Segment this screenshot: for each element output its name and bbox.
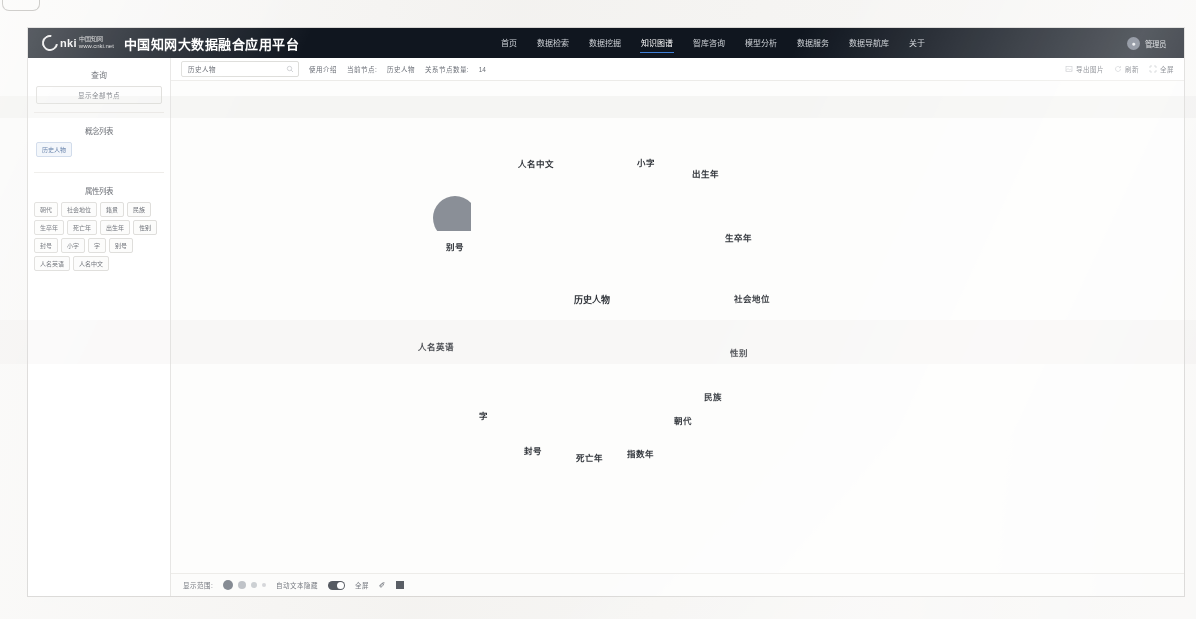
current-node-value: 历史人物 xyxy=(387,64,415,74)
graph-node-label: 小字 xyxy=(637,156,655,168)
paper-corner-mark xyxy=(2,0,40,11)
sidebar-title: 查询 xyxy=(28,64,170,86)
export-image-icon xyxy=(1065,65,1073,73)
attribute-item[interactable]: 社会地位 xyxy=(61,202,97,217)
attribute-item[interactable]: 死亡年 xyxy=(67,220,97,235)
logo-circle-icon xyxy=(39,32,61,54)
attribute-item[interactable]: 字 xyxy=(88,238,106,253)
export-image-label: 导出图片 xyxy=(1076,64,1104,74)
attribute-item[interactable]: 民族 xyxy=(127,202,151,217)
attribute-item[interactable]: 生卒年 xyxy=(34,220,64,235)
application-window: nki 中国知网 www.cnki.net 中国知网大数据融合应用平台 首页数据… xyxy=(28,28,1184,596)
graph-node-label: 生卒年 xyxy=(725,231,752,243)
graph-node-label: 封号 xyxy=(524,444,542,456)
graph-bottom-bar: 显示范围: 自动文本隐藏 全屏 ✐ xyxy=(171,573,1184,596)
app-body: 查询 显示全部节点 概念列表 历史人物 属性列表 朝代社会地位籍贯民族生卒年死亡… xyxy=(28,58,1184,596)
nav-item-8[interactable]: 关于 xyxy=(908,31,926,55)
scope-size-2[interactable] xyxy=(238,581,246,589)
export-image-button[interactable]: 导出图片 xyxy=(1065,64,1104,74)
graph-svg xyxy=(171,81,471,231)
attribute-item[interactable]: 性别 xyxy=(133,220,157,235)
brand-area[interactable]: nki 中国知网 www.cnki.net 中国知网大数据融合应用平台 xyxy=(28,34,299,53)
app-title: 中国知网大数据融合应用平台 xyxy=(124,34,300,53)
logo-cn-line1: 中国知网 xyxy=(79,36,114,43)
graph-node-label: 字 xyxy=(479,409,488,421)
graph-node-label: 人名中文 xyxy=(518,157,554,169)
attribute-item[interactable]: 封号 xyxy=(34,238,58,253)
help-link[interactable]: 使用介绍 xyxy=(309,64,337,74)
left-sidebar: 查询 显示全部节点 概念列表 历史人物 属性列表 朝代社会地位籍贯民族生卒年死亡… xyxy=(28,58,171,596)
nav-item-6[interactable]: 数据服务 xyxy=(796,31,830,55)
refresh-icon xyxy=(1114,65,1122,73)
search-icon xyxy=(286,65,294,73)
refresh-label: 刷新 xyxy=(1125,64,1139,74)
graph-node-label: 人名英语 xyxy=(418,340,454,352)
graph-canvas[interactable]: 人名中文小字出生年生卒年社会地位性别民族朝代指数年死亡年封号字人名英语别号历史人… xyxy=(171,81,1184,573)
cnki-logo: nki 中国知网 www.cnki.net xyxy=(42,35,114,51)
nav-item-2[interactable]: 数据挖掘 xyxy=(588,31,622,55)
nav-item-5[interactable]: 模型分析 xyxy=(744,31,778,55)
fullscreen-label: 全屏 xyxy=(1160,64,1174,74)
scope-size-selector[interactable] xyxy=(223,580,266,590)
graph-node[interactable] xyxy=(433,196,471,231)
attribute-list-label: 属性列表 xyxy=(28,181,170,202)
logo-cn-line2: www.cnki.net xyxy=(79,43,114,50)
pen-icon[interactable]: ✐ xyxy=(379,581,386,590)
search-box[interactable] xyxy=(181,61,299,77)
current-node-label: 当前节点: xyxy=(347,64,377,74)
attribute-item[interactable]: 朝代 xyxy=(34,202,58,217)
nav-item-3[interactable]: 知识图谱 xyxy=(640,31,674,55)
graph-node-label: 死亡年 xyxy=(576,451,603,463)
relation-count-label: 关系节点数量: xyxy=(425,64,469,74)
user-area[interactable]: ● 管理员 xyxy=(1127,37,1184,50)
graph-node-label: 历史人物 xyxy=(574,293,610,306)
graph-node-label: 性别 xyxy=(730,346,748,358)
refresh-button[interactable]: 刷新 xyxy=(1114,64,1139,74)
user-name-label: 管理员 xyxy=(1145,38,1166,49)
graph-panel: 使用介绍 当前节点: 历史人物 关系节点数量: 14 导出图片 xyxy=(171,58,1184,596)
graph-node-label: 指数年 xyxy=(627,447,654,459)
graph-node-label: 民族 xyxy=(704,390,722,402)
attribute-item[interactable]: 人名中文 xyxy=(73,256,109,271)
user-avatar-icon: ● xyxy=(1127,37,1140,50)
graph-node-label: 社会地位 xyxy=(734,292,770,304)
graph-toolbar: 使用介绍 当前节点: 历史人物 关系节点数量: 14 导出图片 xyxy=(171,58,1184,81)
attribute-item[interactable]: 籍贯 xyxy=(100,202,124,217)
scope-size-1[interactable] xyxy=(223,580,233,590)
scope-label: 显示范围: xyxy=(183,580,213,590)
attribute-item[interactable]: 出生年 xyxy=(100,220,130,235)
sidebar-divider-2 xyxy=(34,172,164,173)
logo-chinese-text: 中国知网 www.cnki.net xyxy=(79,36,114,50)
concept-item[interactable]: 历史人物 xyxy=(36,142,72,157)
app-header: nki 中国知网 www.cnki.net 中国知网大数据融合应用平台 首页数据… xyxy=(28,28,1184,58)
concept-list-label: 概念列表 xyxy=(28,121,170,142)
nav-item-0[interactable]: 首页 xyxy=(500,31,518,55)
relation-count-value: 14 xyxy=(479,66,486,73)
auto-hide-toggle[interactable] xyxy=(328,581,345,590)
attribute-list: 朝代社会地位籍贯民族生卒年死亡年出生年性别封号小字字别号人名英语人名中文 xyxy=(28,202,170,274)
logo-wordmark: nki xyxy=(60,37,77,49)
screenshot-root: nki 中国知网 www.cnki.net 中国知网大数据融合应用平台 首页数据… xyxy=(0,0,1196,619)
scope-size-4[interactable] xyxy=(262,583,266,587)
nav-item-7[interactable]: 数据导航库 xyxy=(848,31,890,55)
fullscreen-icon xyxy=(1149,65,1157,73)
graph-node-label: 别号 xyxy=(446,240,464,252)
show-all-nodes-button[interactable]: 显示全部节点 xyxy=(36,86,162,104)
attribute-item[interactable]: 人名英语 xyxy=(34,256,70,271)
stop-square-icon[interactable] xyxy=(396,581,404,589)
graph-node-label: 出生年 xyxy=(692,167,719,179)
sidebar-divider-1 xyxy=(34,112,164,113)
scope-size-3[interactable] xyxy=(251,582,257,588)
nav-item-1[interactable]: 数据检索 xyxy=(536,31,570,55)
graph-node-label: 朝代 xyxy=(674,414,692,426)
search-input[interactable] xyxy=(186,65,286,74)
concept-list: 历史人物 xyxy=(28,142,170,164)
auto-hide-label: 自动文本隐藏 xyxy=(276,580,318,590)
nav-item-4[interactable]: 智库咨询 xyxy=(692,31,726,55)
bottom-fullscreen-label: 全屏 xyxy=(355,580,369,590)
attribute-item[interactable]: 别号 xyxy=(109,238,133,253)
main-navigation: 首页数据检索数据挖掘知识图谱智库咨询模型分析数据服务数据导航库关于 xyxy=(299,31,1127,55)
attribute-item[interactable]: 小字 xyxy=(61,238,85,253)
fullscreen-button[interactable]: 全屏 xyxy=(1149,64,1174,74)
